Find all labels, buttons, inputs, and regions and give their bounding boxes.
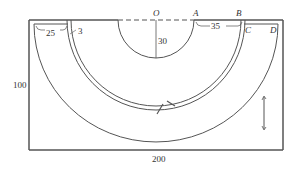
dimension-AB-value: 35: [211, 21, 221, 31]
point-label-A: A: [192, 8, 199, 18]
point-label-D: D: [269, 25, 277, 35]
gap-pointer: [70, 30, 76, 34]
strip-width-value: 25: [46, 28, 56, 38]
point-label-B: B: [236, 8, 242, 18]
point-label-O: O: [153, 8, 160, 18]
height-value: 100: [13, 80, 27, 90]
gap-value: 3: [78, 26, 83, 36]
radius-value: 30: [158, 36, 168, 46]
point-label-C: C: [245, 25, 252, 35]
diagram-canvas: O A B C D 35 30 25 3 100 200: [0, 0, 292, 176]
width-value: 200: [152, 154, 166, 164]
